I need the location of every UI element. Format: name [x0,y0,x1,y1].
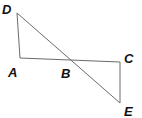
geometry-diagram: D A B C E [0,0,142,118]
label-E: E [124,104,133,118]
label-A: A [7,65,17,80]
label-C: C [124,51,134,66]
segment-DA [17,13,20,58]
label-D: D [2,2,12,17]
segment-AC [20,58,120,62]
label-B: B [61,66,70,81]
